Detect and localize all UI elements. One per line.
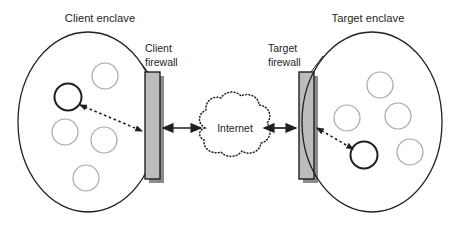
target-host-circle-inactive [367,72,393,98]
target-host-circle-active [351,142,378,169]
target-enclave-group [302,32,442,212]
client-enclave-group [18,32,158,212]
client-firewall-label-line2: firewall [145,56,178,68]
target-enclave-label: Target enclave [332,12,405,24]
client-host-circle-active [55,84,82,111]
network-diagram: Client enclave Client firewall Internet … [0,0,459,238]
internet-cloud-group: Internet [199,92,270,156]
target-firewall-label-line2: firewall [268,56,301,68]
target-host-circle-inactive [334,105,360,131]
client-firewall-label-line1: Client [145,42,172,54]
target-host-circle-inactive [397,139,423,165]
internet-label: Internet [217,122,253,134]
diagram-canvas: Client enclave Client firewall Internet … [0,0,459,238]
client-firewall-block [145,72,160,179]
target-host-circle-inactive [385,103,411,129]
target-firewall-leader-line [311,56,323,72]
target-firewall-label-line1: Target [268,42,297,54]
client-enclave-label: Client enclave [65,12,135,24]
target-enclave-boundary [302,32,442,212]
client-enclave-boundary [18,32,158,212]
